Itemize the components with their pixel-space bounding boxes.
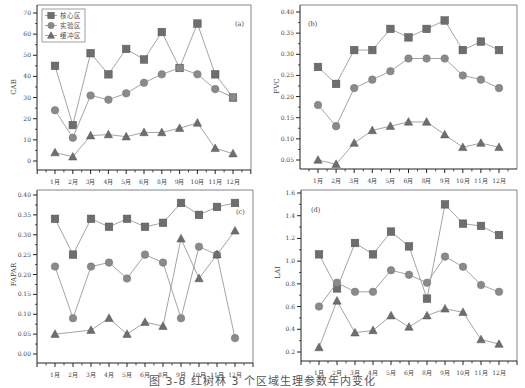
y-tick-label: 1.0 (285, 257, 295, 264)
x-tick-label: 4月 (103, 178, 113, 186)
y-tick-label: 0.4 (285, 325, 295, 332)
square-marker (159, 219, 167, 227)
y-tick-label: 0.35 (281, 29, 295, 36)
circle-marker (141, 251, 149, 259)
circle-marker (158, 71, 166, 79)
panel-label: (a) (235, 20, 244, 28)
square-marker (459, 220, 467, 228)
series-line (55, 68, 233, 138)
circle-marker (405, 55, 413, 63)
chart-legend: 核心区实验区缓冲区 (42, 9, 85, 42)
square-marker (211, 71, 219, 79)
x-tick-label: 2月 (68, 178, 78, 186)
y-tick-label: 0.40 (281, 8, 295, 15)
y-tick-label: 0.6 (285, 303, 295, 310)
circle-marker (122, 90, 130, 98)
square-marker (423, 25, 431, 33)
x-tick-label: 1月 (313, 177, 323, 185)
square-marker (315, 251, 323, 259)
triangle-marker (441, 304, 449, 312)
triangle-marker (177, 234, 185, 242)
triangle-marker (423, 311, 431, 319)
square-marker (69, 121, 77, 129)
x-tick-label: 4月 (367, 177, 377, 185)
circle-marker (423, 279, 431, 287)
x-tick-label: 9月 (440, 177, 450, 185)
y-tick-label: 0.25 (281, 71, 295, 78)
square-marker (123, 215, 131, 223)
y-tick-label: 30 (23, 94, 31, 101)
triangle-marker (350, 139, 358, 147)
y-tick-label: 0 (27, 157, 31, 164)
y-tick-label: 60 (23, 30, 31, 37)
circle-marker (229, 94, 237, 102)
y-tick-label: 1.6 (285, 189, 295, 196)
series-experimental-zone (315, 253, 503, 311)
circle-marker (495, 288, 503, 296)
circle-marker (176, 64, 184, 72)
x-tick-label: 9月 (175, 178, 185, 186)
square-marker (495, 46, 503, 54)
circle-marker (495, 84, 503, 92)
circle-marker (194, 71, 202, 79)
y-tick-label: 0.8 (285, 280, 295, 287)
x-tick-label: 2月 (331, 177, 341, 185)
series-line (318, 59, 499, 127)
circle-marker (177, 314, 185, 322)
y-tick-label: 1.2 (285, 234, 295, 241)
y-tick-label: 0.00 (18, 350, 32, 357)
legend-label: 核心区 (60, 11, 81, 20)
square-marker (105, 71, 113, 79)
circle-marker (105, 259, 113, 267)
circle-marker (441, 253, 449, 261)
y-tick-label: 10 (23, 136, 31, 143)
x-tick-label: 3月 (349, 177, 359, 185)
x-tick-label: 6月 (404, 177, 414, 185)
triangle-marker (140, 128, 148, 136)
square-marker (51, 62, 59, 70)
square-marker (314, 63, 322, 71)
x-tick-label: 5月 (121, 178, 131, 186)
circle-marker (405, 271, 413, 279)
chart-panel-c: 0.000.050.100.150.200.250.300.350.401月2月… (10, 190, 253, 379)
chart-panel-b: 0.050.100.150.200.250.300.350.401月2月3月4月… (273, 5, 517, 185)
square-marker (495, 231, 503, 239)
legend-label: 实验区 (60, 21, 81, 30)
y-axis-label: LAI (274, 266, 282, 279)
x-tick-label: 10月 (191, 178, 205, 186)
circle-marker (159, 259, 167, 267)
square-marker (477, 222, 485, 230)
x-tick-label: 5月 (385, 177, 395, 185)
square-marker (369, 251, 377, 259)
square-marker (369, 46, 377, 54)
triangle-marker (477, 335, 485, 343)
square-marker (477, 38, 485, 46)
y-tick-label: 0.15 (281, 114, 295, 121)
square-marker (459, 46, 467, 54)
triangle-marker (231, 226, 239, 234)
y-tick-label: 20 (23, 115, 31, 122)
y-tick-label: 0.05 (281, 156, 295, 163)
square-marker (405, 34, 413, 42)
square-marker (87, 215, 95, 223)
y-tick-label: 0.20 (281, 93, 295, 100)
circle-marker (87, 263, 95, 271)
circle-marker (387, 266, 395, 274)
circle-marker (333, 279, 341, 287)
circle-marker (48, 22, 54, 28)
circle-marker (423, 55, 431, 63)
circle-marker (123, 275, 131, 283)
y-tick-label: 0.2 (285, 348, 295, 355)
y-tick-label: 0.20 (18, 271, 32, 278)
square-marker (51, 215, 59, 223)
y-tick-label: 0.15 (18, 290, 32, 297)
triangle-marker (314, 156, 322, 164)
square-marker (194, 20, 202, 28)
series-experimental-zone (51, 243, 239, 342)
circle-marker (332, 122, 340, 130)
square-marker (441, 201, 449, 209)
y-tick-label: 0.40 (18, 191, 32, 198)
circle-marker (350, 84, 358, 92)
circle-marker (314, 101, 322, 109)
triangle-marker (441, 130, 449, 138)
